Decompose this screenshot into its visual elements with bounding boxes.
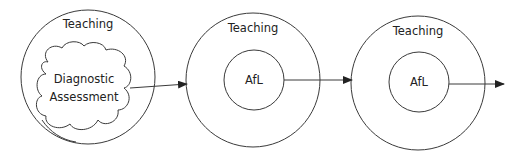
afl-label-2: AfL xyxy=(245,73,264,87)
assessment-label: Assessment xyxy=(50,90,119,104)
stage-3: Teaching AfL xyxy=(351,16,485,150)
stage-1: Teaching Diagnostic Assessment xyxy=(21,10,155,144)
diagnostic-label: Diagnostic xyxy=(54,72,115,86)
assessment-cycle-diagram: Teaching Diagnostic Assessment Teaching … xyxy=(0,0,519,162)
teaching-label-3: Teaching xyxy=(392,24,444,38)
afl-label-3: AfL xyxy=(410,75,429,89)
teaching-label-1: Teaching xyxy=(62,17,114,31)
arrow-1 xyxy=(130,84,187,88)
teaching-label-2: Teaching xyxy=(227,21,279,35)
cloud-tail xyxy=(42,120,76,142)
